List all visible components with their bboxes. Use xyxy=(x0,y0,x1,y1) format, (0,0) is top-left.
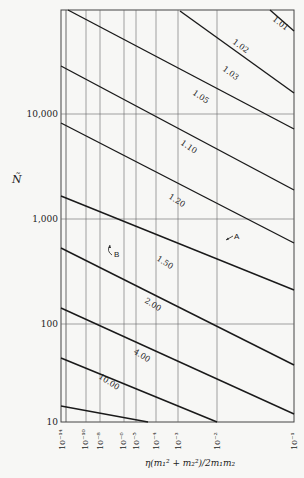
plot-area xyxy=(61,10,294,422)
y-gridlines xyxy=(61,114,294,324)
x-tick-1e-2: 10⁻² xyxy=(213,432,222,450)
label-1.50: 1.50 xyxy=(155,254,175,271)
label-1.02: 1.02 xyxy=(231,37,251,55)
curve-labels: 1.01 1.02 1.03 1.05 1.10 1.20 1.50 2.00 … xyxy=(97,14,290,391)
curve-1.03 xyxy=(68,10,294,129)
label-10.00: 10.00 xyxy=(97,372,121,392)
y-tick-100: 100 xyxy=(41,319,58,329)
x-tick-1e-10: 10⁻¹⁰ xyxy=(81,429,90,450)
curve-1.10 xyxy=(61,123,294,243)
y-axis-label: Ñ xyxy=(11,172,22,186)
curves xyxy=(61,10,294,422)
annotation-a: A xyxy=(226,232,240,241)
label-1.20: 1.20 xyxy=(167,192,187,209)
x-tick-1e-8: 10⁻⁸ xyxy=(96,432,105,450)
x-tick-1e-5: 10⁻⁵ xyxy=(132,432,141,450)
label-1.03: 1.03 xyxy=(221,64,241,82)
annotation-b: B xyxy=(108,245,119,259)
x-tick-1e-14: 10⁻¹⁴ xyxy=(58,429,67,450)
chart: 1.01 1.02 1.03 1.05 1.10 1.20 1.50 2.00 … xyxy=(0,0,304,478)
label-1.05: 1.05 xyxy=(191,88,211,105)
x-tick-1e-1: 10⁻¹ xyxy=(290,432,299,450)
annotation-b-label: B xyxy=(114,250,119,259)
curve-1.50 xyxy=(61,248,294,365)
curve-1.05 xyxy=(61,66,294,190)
x-tick-1e-6: 10⁻⁶ xyxy=(119,432,128,450)
x-tick-1e-3: 10⁻³ xyxy=(174,432,183,450)
x-gridlines xyxy=(86,10,217,422)
y-tick-10: 10 xyxy=(47,417,59,427)
label-1.10: 1.10 xyxy=(179,138,199,155)
annotation-a-label: A xyxy=(234,232,240,241)
curve-1.20 xyxy=(61,196,294,290)
x-axis-label: η(m₁² + m₂²)/2m₁m₂ xyxy=(145,458,236,468)
curve-10.00 xyxy=(61,406,148,422)
label-1.01: 1.01 xyxy=(271,14,291,32)
label-2.00: 2.00 xyxy=(143,296,163,313)
y-tick-1000: 1,000 xyxy=(32,214,58,224)
y-tick-10000: 10,000 xyxy=(27,109,59,119)
label-4.00: 4.00 xyxy=(132,347,152,364)
x-tick-1e-4: 10⁻⁴ xyxy=(152,432,161,450)
y-axis-ticks: 10,000 1,000 100 10 xyxy=(27,109,59,427)
x-axis-ticks: 10⁻¹⁴ 10⁻¹⁰ 10⁻⁸ 10⁻⁶ 10⁻⁵ 10⁻⁴ 10⁻³ 10⁻… xyxy=(58,429,299,450)
